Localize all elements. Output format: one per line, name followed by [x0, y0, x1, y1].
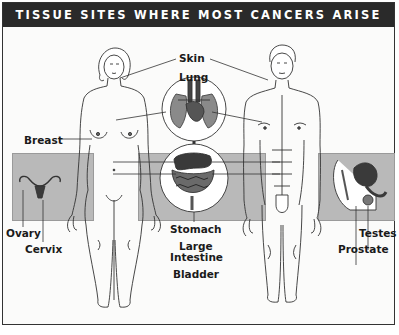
digestive-tract-inset [160, 141, 228, 212]
label-prostate: Prostate [338, 243, 389, 255]
label-cervix: Cervix [25, 243, 62, 255]
label-large-intestine-line2: Intestine [170, 251, 223, 263]
male-pelvis-inset [334, 160, 386, 210]
male-body-outline [243, 45, 321, 302]
label-ovary: Ovary [6, 227, 41, 239]
label-breast: Breast [24, 134, 63, 146]
anatomy-illustration [0, 0, 399, 335]
female-body-outline [68, 48, 161, 307]
label-bladder: Bladder [173, 268, 219, 280]
label-skin: Skin [179, 52, 205, 64]
label-stomach: Stomach [170, 223, 222, 235]
label-testes: Testes [359, 227, 397, 239]
lung-heart-inset [162, 77, 226, 141]
uterus-ovaries-inset [20, 176, 61, 198]
label-lung: Lung [179, 71, 208, 83]
